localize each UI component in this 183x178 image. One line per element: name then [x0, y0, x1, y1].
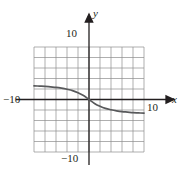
x-axis-label: x [172, 94, 177, 105]
y-axis-label: y [93, 8, 98, 19]
graph-figure: y x 10 −10 −10 10 [0, 0, 183, 178]
x-tick-label-10: 10 [147, 102, 158, 113]
y-axis [85, 14, 92, 165]
y-tick-label-minus-10: −10 [61, 153, 78, 164]
x-tick-label-minus-10: −10 [3, 94, 20, 105]
coordinate-plot [0, 0, 183, 178]
y-tick-label-10: 10 [66, 28, 77, 39]
